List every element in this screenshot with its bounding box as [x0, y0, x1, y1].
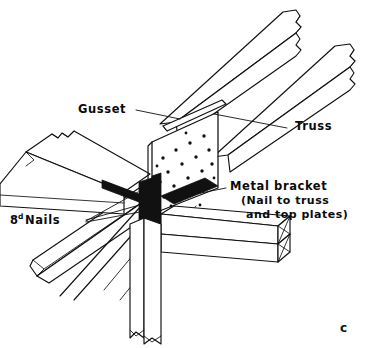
label-gusset: Gusset — [78, 102, 126, 116]
label-metal-bracket-line3: and top plates) — [246, 208, 348, 221]
label-metal-bracket-line2: (Nail to truss — [241, 194, 329, 207]
label-truss-group: Truss — [295, 119, 332, 133]
label-truss: Truss — [295, 119, 332, 133]
label-nails-superscript: d — [18, 212, 23, 221]
figure-caption-letter: c — [340, 321, 347, 335]
wall-stud — [130, 218, 161, 344]
label-nails-group: 8 d Nails — [10, 212, 60, 227]
figure-caption-group: c — [340, 321, 347, 335]
label-nails-text: Nails — [25, 213, 60, 227]
label-metal-bracket-line1: Metal bracket — [230, 179, 327, 193]
truss-connection-figure: Gusset Truss 8 d Nails Metal bracket (Na… — [0, 0, 388, 348]
label-gusset-group: Gusset — [78, 102, 126, 116]
label-metal-bracket-group: Metal bracket (Nail to truss and top pla… — [230, 179, 348, 221]
